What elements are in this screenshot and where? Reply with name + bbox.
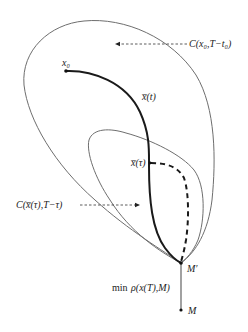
outer-reachable-set-boundary <box>24 21 214 263</box>
optimal-trajectory <box>66 71 181 263</box>
start-point-label: x₀ <box>61 57 70 68</box>
intermediate-point-marker <box>149 162 152 165</box>
intermediate-point-label: x̅(τ) <box>130 157 146 169</box>
start-point-marker <box>64 69 68 73</box>
reachable-set-diagram: C(x₀,T−t₀) C(x̅(τ),T−τ) x₀ x̅(t) x̅(τ) M… <box>0 0 248 332</box>
inner-set-label: C(x̅(τ),T−τ) <box>16 199 63 211</box>
distance-prefix-label: min <box>112 282 128 293</box>
end-point-label: M′ <box>186 263 198 274</box>
end-point-marker <box>179 261 183 265</box>
target-point-marker <box>179 308 182 311</box>
target-point-label: M <box>187 305 197 316</box>
distance-expression-label: ρ(x(T),M) <box>130 282 171 294</box>
trajectory-label: x̅(t) <box>141 91 157 103</box>
outer-set-label: C(x₀,T−t₀) <box>189 38 232 50</box>
